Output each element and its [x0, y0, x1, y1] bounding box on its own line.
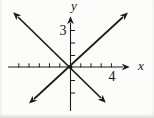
y-tick-label-3: 3 [60, 23, 67, 38]
x-axis-label: x [137, 58, 144, 73]
y-axis-label: y [69, 0, 77, 13]
line-y-equals-x [34, 17, 123, 99]
coordinate-plane-svg: y x 3 4 [0, 0, 154, 118]
origin-point [69, 65, 73, 69]
graph-figure: y x 3 4 [0, 0, 154, 118]
x-tick-label-4: 4 [109, 69, 116, 84]
